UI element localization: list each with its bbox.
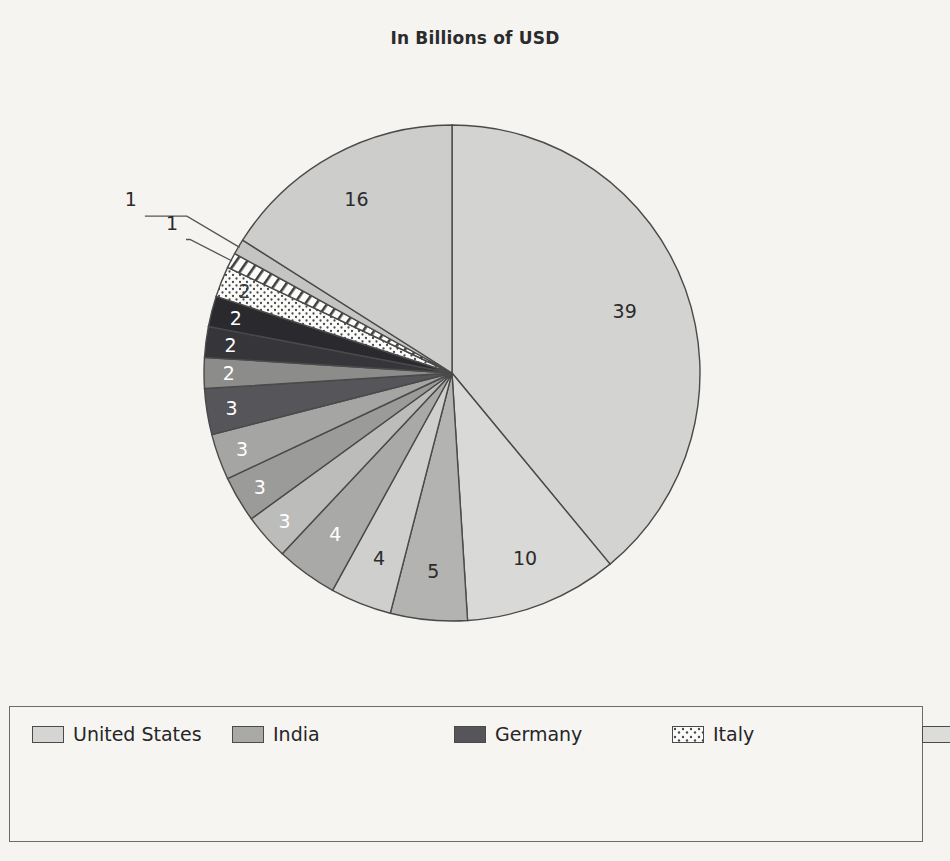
pie-slice-value: 2 <box>238 280 250 302</box>
pie-slice-value: 5 <box>427 560 439 582</box>
pie-slice-value: 4 <box>373 547 385 569</box>
legend-item[interactable]: Germany <box>454 721 672 748</box>
legend-swatch-icon <box>922 726 950 743</box>
legend-swatch-icon <box>232 726 264 743</box>
chart-page: In Billions of USD <box>0 0 950 861</box>
pie-slice-value: 3 <box>225 397 237 419</box>
pie-slice-value: 2 <box>225 334 237 356</box>
pie-slices <box>204 125 700 621</box>
legend-item[interactable]: India <box>232 721 454 748</box>
pie-slice-value: 39 <box>613 300 637 322</box>
legend-item[interactable]: United States <box>32 721 232 748</box>
leader-line <box>186 240 232 262</box>
legend-item[interactable]: Italy <box>672 721 922 748</box>
pie-slice-value: 3 <box>254 476 266 498</box>
pie-slice-value: 3 <box>279 510 291 532</box>
legend-swatch-icon <box>454 726 486 743</box>
pie-slice-value: 3 <box>236 438 248 460</box>
legend-item-label: United States <box>73 725 202 744</box>
pie-chart-svg: 3910544333322221116 <box>0 0 950 690</box>
pie-slice-value: 2 <box>230 307 242 329</box>
pie-slice-value: 1 <box>125 188 137 210</box>
legend-item-label: Germany <box>495 725 582 744</box>
legend-swatch-icon <box>32 726 64 743</box>
pie-slice-value: 10 <box>513 547 537 569</box>
legend-item-label: India <box>273 725 320 744</box>
legend-grid: United StatesIndiaGermanyItalyChinaUnite… <box>32 721 950 748</box>
pie-slice-value: 16 <box>344 188 368 210</box>
pie-chart: 3910544333322221116 <box>0 0 950 690</box>
leader-line <box>145 216 240 247</box>
legend: United StatesIndiaGermanyItalyChinaUnite… <box>9 706 923 842</box>
pie-slice-value: 4 <box>329 523 341 545</box>
legend-item[interactable]: China <box>922 721 950 748</box>
pie-leader-lines <box>145 216 240 261</box>
pie-slice-value: 2 <box>223 362 235 384</box>
legend-swatch-icon <box>672 726 704 743</box>
pie-slice-value: 1 <box>166 212 178 234</box>
legend-item-label: Italy <box>713 725 754 744</box>
